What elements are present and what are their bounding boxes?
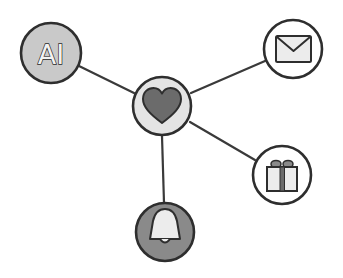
edge-heart-mail bbox=[191, 61, 265, 93]
node-heart-hub[interactable] bbox=[133, 77, 191, 135]
edge-heart-gift bbox=[190, 122, 255, 160]
bell-clapper bbox=[160, 239, 170, 243]
ai-text-icon: AI bbox=[38, 39, 64, 70]
node-bell[interactable] bbox=[136, 203, 194, 261]
node-ai[interactable]: AI bbox=[21, 23, 81, 83]
node-mail[interactable] bbox=[264, 20, 322, 78]
envelope-icon bbox=[276, 36, 311, 62]
edge-heart-bell bbox=[162, 136, 164, 203]
node-gift[interactable] bbox=[253, 146, 311, 204]
edge-heart-ai bbox=[79, 66, 134, 93]
network-diagram: AI bbox=[0, 0, 343, 278]
